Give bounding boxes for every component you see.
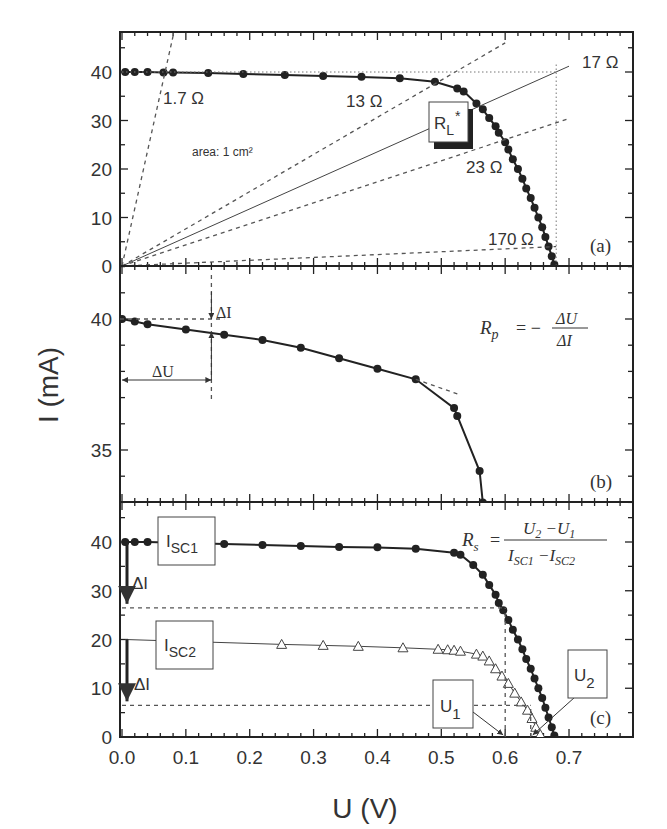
panel-b-label: (b) <box>590 471 612 493</box>
label-170-ohm: 170 Ω <box>488 230 534 249</box>
isc1-box: ISC1 <box>158 517 215 565</box>
panel-a-label: (a) <box>590 235 611 257</box>
y-tick-label: 30 <box>91 581 112 602</box>
y-tick-label: 30 <box>91 111 112 132</box>
data-point <box>538 694 546 702</box>
y-tick-label: 20 <box>91 159 112 180</box>
data-point <box>453 412 461 420</box>
data-point <box>531 675 539 683</box>
y-tick-label: 10 <box>91 678 112 699</box>
x-tick-label: 0.0 <box>109 747 135 768</box>
data-point <box>204 69 212 77</box>
data-point <box>258 336 266 344</box>
data-point <box>527 713 537 722</box>
data-point <box>550 732 558 740</box>
data-point <box>534 214 542 222</box>
x-tick-label: 0.3 <box>300 747 326 768</box>
x-tick-label: 0.6 <box>492 747 518 768</box>
data-point <box>373 543 381 551</box>
area-note: area: 1 cm² <box>192 145 253 159</box>
data-point <box>144 538 152 546</box>
data-point <box>518 175 526 183</box>
svg-text:=: = <box>490 530 500 550</box>
data-point <box>220 331 228 339</box>
data-point <box>456 551 464 559</box>
y-tick-label: 40 <box>91 532 112 553</box>
data-point <box>522 184 530 192</box>
data-point <box>476 467 484 475</box>
x-axis-title: U (V) <box>332 793 397 824</box>
data-point <box>396 74 404 82</box>
panel-c-label: (c) <box>590 707 611 729</box>
data-point <box>373 365 381 373</box>
data-point <box>479 571 487 579</box>
delta-i-label-b: ΔI <box>216 304 232 321</box>
data-point <box>527 194 535 202</box>
y-tick-label: 0 <box>101 727 112 748</box>
data-point <box>541 233 549 241</box>
data-point <box>531 722 541 731</box>
data-point <box>239 70 247 78</box>
data-point <box>548 723 556 731</box>
x-tick-label: 0.5 <box>428 747 454 768</box>
data-point <box>450 404 458 412</box>
data-point <box>518 645 526 653</box>
data-point <box>531 204 539 212</box>
y-axis-title: I (mA) <box>33 347 64 423</box>
data-point <box>297 542 305 550</box>
delta-i-label-c1: ΔI <box>132 574 148 593</box>
data-point <box>460 87 468 95</box>
plot-frame <box>120 266 633 502</box>
data-point <box>412 375 420 383</box>
data-point <box>479 105 487 113</box>
data-point <box>514 636 522 644</box>
data-point <box>495 129 503 137</box>
data-point <box>220 540 228 548</box>
data-point <box>495 599 503 607</box>
y-tick-label: 35 <box>91 440 112 461</box>
data-point <box>548 252 556 260</box>
x-tick-label: 0.7 <box>556 747 582 768</box>
data-point <box>514 165 522 173</box>
svg-text:= −: = − <box>516 318 541 338</box>
delta-u-label-b: ΔU <box>152 363 174 380</box>
data-point <box>516 697 526 706</box>
svg-text:ΔU: ΔU <box>555 310 578 327</box>
data-point <box>131 538 139 546</box>
x-tick-label: 0.1 <box>173 747 199 768</box>
y-tick-label: 0 <box>101 256 112 277</box>
data-point <box>509 155 517 163</box>
label-17-ohm: 17 Ω <box>582 53 618 72</box>
y-tick-label: 10 <box>91 208 112 229</box>
svg-text:Rs: Rs <box>461 529 479 554</box>
data-point <box>522 655 530 663</box>
delta-i-label-c2: ΔI <box>134 675 150 694</box>
data-point <box>504 146 512 154</box>
data-point <box>182 325 190 333</box>
svg-text:ΔI: ΔI <box>556 332 572 349</box>
label-13-ohm: 13 Ω <box>346 92 382 111</box>
isc2-box: ISC2 <box>156 621 213 669</box>
panel-b: 3540 <box>91 266 633 506</box>
x-tick-label: 0.2 <box>237 747 263 768</box>
data-point <box>550 261 558 269</box>
data-point <box>492 591 500 599</box>
u1-box: U1 <box>433 680 473 728</box>
data-point <box>485 114 493 122</box>
data-point <box>258 541 266 549</box>
data-point <box>509 626 517 634</box>
svg-text:U2 −U1: U2 −U1 <box>523 519 575 541</box>
data-point <box>357 73 365 81</box>
y-tick-label: 40 <box>91 62 112 83</box>
data-point <box>144 320 152 328</box>
data-point <box>469 561 477 569</box>
data-point <box>319 72 327 80</box>
x-tick-label: 0.4 <box>364 747 391 768</box>
data-point <box>510 688 520 697</box>
data-point <box>297 344 305 352</box>
iv-curve-figure: 010203040 3540 0102030400.00.10.20.30.40… <box>0 0 667 829</box>
y-tick-label: 40 <box>91 309 112 330</box>
data-point <box>335 354 343 362</box>
load-resistance-box: RL* <box>429 102 473 149</box>
data-point <box>538 223 546 231</box>
